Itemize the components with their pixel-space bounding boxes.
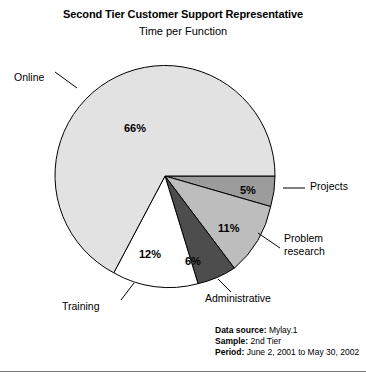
source-value-period: June 2, 2001 to May 30, 2002 [247, 347, 359, 357]
callout-label-problem-research: Problem research [284, 232, 360, 258]
source-key-data-source: Data source: [215, 325, 267, 335]
callout-label-training: Training [62, 300, 100, 313]
source-value-sample: 2nd Tier [250, 336, 281, 346]
callout-label-online: Online [14, 71, 44, 84]
source-key-sample: Sample: [215, 336, 248, 346]
source-value-data-source: Mylay.1 [269, 325, 298, 335]
chart-canvas: Second Tier Customer Support Representat… [0, 0, 366, 381]
pie-value-online: 66% [124, 122, 146, 134]
source-line-period: Period: June 2, 2001 to May 30, 2002 [215, 347, 359, 358]
pie-value-training: 12% [139, 248, 161, 260]
leader-line-online [55, 72, 77, 88]
source-line-data-source: Data source: Mylay.1 [215, 325, 359, 336]
source-line-sample: Sample: 2nd Tier [215, 336, 359, 347]
callout-label-projects: Projects [310, 180, 348, 193]
pie-value-problem-research: 11% [218, 222, 240, 234]
source-block: Data source: Mylay.1 Sample: 2nd Tier Pe… [215, 325, 359, 359]
pie-value-administrative: 6% [185, 255, 201, 267]
leader-line-problem-research [258, 233, 280, 248]
pie-value-projects: 5% [240, 184, 256, 196]
leader-line-training [121, 283, 134, 300]
source-key-period: Period: [215, 347, 244, 357]
callout-label-administrative: Administrative [205, 292, 271, 305]
leader-line-administrative [218, 279, 231, 292]
footer-divider [0, 371, 366, 372]
pie-slices [55, 65, 275, 287]
